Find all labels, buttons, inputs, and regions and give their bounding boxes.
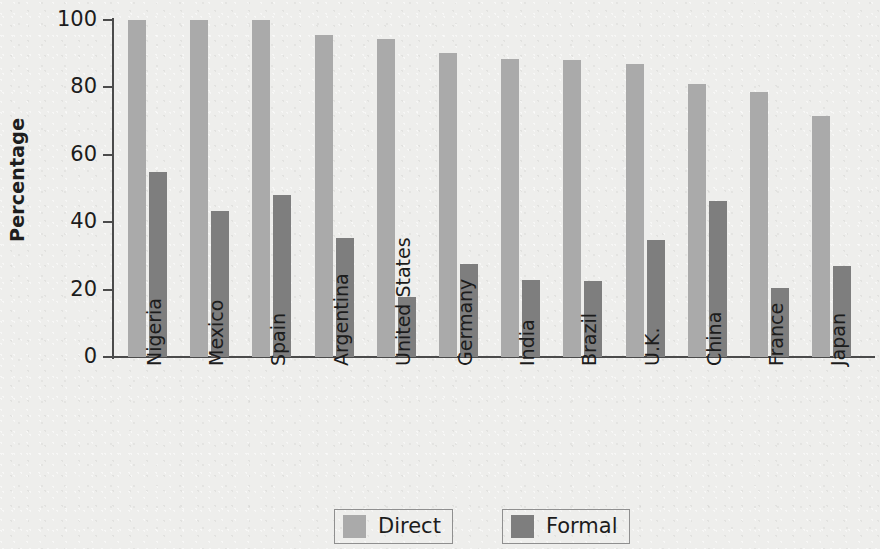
legend-label: Direct <box>378 516 441 537</box>
y-axis-tick-label: 60 <box>33 144 97 165</box>
x-axis-label: China <box>705 226 724 366</box>
legend-item: Formal <box>502 509 630 544</box>
legend-swatch <box>511 515 534 538</box>
x-axis-label: Argentina <box>332 226 351 366</box>
y-axis-tick-label: 100 <box>33 9 97 30</box>
x-axis-label: U.K. <box>643 226 662 366</box>
x-axis-label: Spain <box>269 226 288 366</box>
legend-item: Direct <box>334 509 453 544</box>
bar-direct <box>252 20 270 357</box>
y-axis-tick-label: 0 <box>33 346 97 367</box>
x-axis-label: Nigeria <box>145 226 164 366</box>
x-axis-label: United States <box>394 226 413 366</box>
chart-legend: DirectFormal <box>334 509 630 544</box>
x-axis-label: Brazil <box>580 226 599 366</box>
plot-area <box>113 20 873 357</box>
chart-canvas: Percentage 020406080100 NigeriaMexicoSpa… <box>0 0 880 549</box>
x-axis-label: France <box>767 226 786 366</box>
legend-swatch <box>343 515 366 538</box>
bar-direct <box>501 59 519 357</box>
x-axis-label: India <box>518 226 537 366</box>
x-axis-label: Germany <box>456 226 475 366</box>
y-axis-tick-label: 40 <box>33 211 97 232</box>
bar-direct <box>626 64 644 357</box>
y-axis-tick-label: 80 <box>33 76 97 97</box>
y-axis-title: Percentage <box>6 132 28 242</box>
x-axis-label: Japan <box>829 226 848 366</box>
y-axis-tick-label: 20 <box>33 279 97 300</box>
legend-label: Formal <box>546 516 618 537</box>
x-axis-label: Mexico <box>207 226 226 366</box>
